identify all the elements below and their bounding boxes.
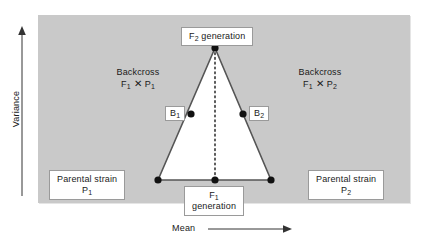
b2-sub: 2 xyxy=(260,112,264,119)
backcross-right-parent2-sub: 2 xyxy=(333,83,337,90)
label-parental-strain-p1: Parental strain P1 xyxy=(49,170,125,200)
y-axis-title: Variance xyxy=(11,79,21,139)
parental-right-sub: 2 xyxy=(347,189,351,196)
f1-symbol: F1 xyxy=(192,190,236,201)
backcross-left-parent2-sub: 1 xyxy=(151,83,155,90)
label-b1: B1 xyxy=(165,106,185,121)
label-f1-generation: F1 generation xyxy=(184,186,244,216)
point-p2 xyxy=(267,176,274,183)
backcross-left-title: Backcross xyxy=(96,67,180,78)
parental-left-title: Parental strain xyxy=(57,174,117,185)
parental-left-symbol: P1 xyxy=(57,185,117,196)
f1-main: F xyxy=(209,190,215,200)
b1-sub: 1 xyxy=(176,112,180,119)
multiply-icon: ✕ xyxy=(313,78,327,89)
point-b2 xyxy=(239,110,246,117)
backcross-left-parent1-main: F xyxy=(121,79,127,89)
multiply-icon: ✕ xyxy=(131,78,145,89)
backcross-right-title: Backcross xyxy=(278,67,362,78)
point-f1 xyxy=(211,176,218,183)
parental-right-title: Parental strain xyxy=(316,174,376,185)
f2-rest: generation xyxy=(199,31,246,41)
backcross-left-cross: F1✕P1 xyxy=(96,78,180,90)
label-backcross-right: Backcross F1✕P2 xyxy=(278,67,362,90)
variance-mean-diagram: F2 generation B1 B2 Backcross F1✕P1 Back… xyxy=(0,0,430,247)
mean-axis-arrow xyxy=(208,225,292,233)
parental-right-symbol: P2 xyxy=(316,185,376,196)
point-p1 xyxy=(154,176,161,183)
backcross-left-parent1-sub: 1 xyxy=(127,83,131,90)
label-f2-generation: F2 generation xyxy=(181,27,253,46)
point-b1 xyxy=(187,110,194,117)
f1-line2: generation xyxy=(192,201,236,212)
f2-sub: 2 xyxy=(195,35,199,42)
label-b2: B2 xyxy=(249,106,269,121)
backcross-right-parent1-main: F xyxy=(303,79,309,89)
f2-main: F xyxy=(189,31,195,41)
backcross-right-cross: F1✕P2 xyxy=(278,78,362,90)
f1-sub: 1 xyxy=(215,194,219,201)
parental-left-sub: 1 xyxy=(88,189,92,196)
backcross-right-parent1-sub: 1 xyxy=(309,83,313,90)
x-axis-title: Mean xyxy=(172,223,195,233)
label-backcross-left: Backcross F1✕P1 xyxy=(96,67,180,90)
label-parental-strain-p2: Parental strain P2 xyxy=(308,170,384,200)
